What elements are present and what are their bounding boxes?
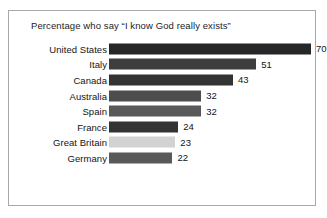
bar-value-label: 32 (201, 106, 217, 117)
bar-row: Spain32 (9, 103, 315, 119)
bar-chart-plot-area: United States70Italy51Canada43Australia3… (9, 41, 315, 201)
bar-category-label: Canada (73, 74, 107, 85)
bar-fill (109, 43, 311, 54)
bar-fill (109, 152, 172, 163)
bar-row: Canada43 (9, 72, 315, 88)
bar-track: 51 (109, 59, 311, 70)
bar-category-label: Spain (82, 106, 107, 117)
bar-track: 24 (109, 121, 311, 132)
bar-row: Germany22 (9, 150, 315, 166)
bar-track: 32 (109, 106, 311, 117)
bar-track: 22 (109, 152, 311, 163)
bar-track: 23 (109, 137, 311, 148)
bar-category-label: Germany (68, 152, 107, 163)
chart-title: Percentage who say “I know God really ex… (31, 20, 231, 31)
bar-value-label: 70 (311, 43, 327, 54)
bar-fill (109, 121, 178, 132)
bar-category-label: Great Britain (53, 137, 107, 148)
bar-row: United States70 (9, 41, 315, 57)
bar-track: 70 (109, 43, 311, 54)
bar-category-label: Australia (70, 90, 107, 101)
bar-row: Great Britain23 (9, 135, 315, 151)
bar-row: France24 (9, 119, 315, 135)
bar-category-label: Italy (89, 59, 107, 70)
bar-value-label: 51 (256, 59, 272, 70)
bar-value-label: 32 (201, 90, 217, 101)
bar-row: Australia32 (9, 88, 315, 104)
chart-frame: Percentage who say “I know God really ex… (8, 10, 316, 206)
bar-row: Italy51 (9, 57, 315, 73)
bar-fill (109, 137, 175, 148)
bar-fill (109, 90, 201, 101)
bar-category-label: France (77, 121, 107, 132)
bar-track: 43 (109, 74, 311, 85)
bar-fill (109, 74, 233, 85)
bar-value-label: 22 (172, 152, 188, 163)
bar-value-label: 24 (178, 121, 194, 132)
bar-value-label: 23 (175, 137, 191, 148)
bar-track: 32 (109, 90, 311, 101)
bar-category-label: United States (49, 43, 107, 54)
bar-value-label: 43 (233, 74, 249, 85)
bar-fill (109, 106, 201, 117)
bar-fill (109, 59, 256, 70)
